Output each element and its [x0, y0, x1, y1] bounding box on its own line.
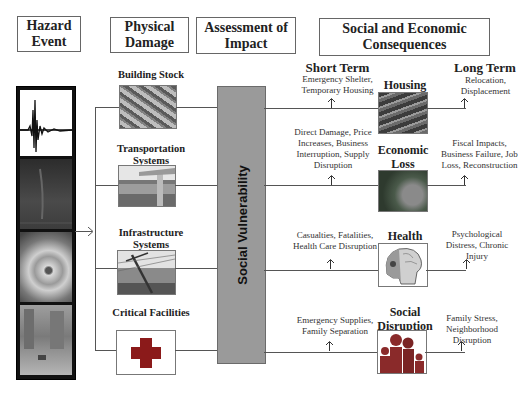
- collapsed-building-image: [119, 85, 177, 129]
- housing-connector-left: [264, 108, 378, 109]
- connector-infrastructure: [95, 268, 117, 269]
- collapsed-highway-image: [118, 165, 176, 207]
- tornado-image: [20, 159, 72, 229]
- header-physical-damage: Physical Damage: [110, 17, 189, 53]
- social-long-arrow-up-icon: [457, 341, 466, 351]
- economic-short-term-text: Direct Damage, Price Increases, Business…: [292, 127, 374, 171]
- family-icon-box: [377, 330, 427, 374]
- economic-connector-right: [426, 185, 466, 186]
- header-hazard-event: Hazard Event: [17, 16, 81, 52]
- economic-connector-left: [264, 185, 378, 186]
- damaged-house-image: [378, 92, 428, 134]
- connector-transportation-right: [175, 185, 217, 186]
- infrastructure-systems-label: Infrastructure Systems: [110, 227, 192, 251]
- red-cross-icon: [117, 331, 175, 374]
- header-assessment-label: Assessment of Impact: [197, 20, 295, 52]
- social-vulnerability-label: Social Vulnerability: [234, 165, 249, 284]
- housing-connector-right: [426, 108, 466, 109]
- fallen-power-pole-image: [117, 250, 176, 295]
- critical-facilities-box: [116, 330, 176, 375]
- social-vulnerability-bar: Social Vulnerability: [217, 86, 266, 364]
- social-short-arrow-up-icon: [325, 341, 334, 351]
- seismogram-image: [20, 90, 72, 156]
- health-label: Health: [380, 230, 430, 242]
- economic-long-term-text: Fiscal Impacts, Business Failure, Job Lo…: [436, 138, 523, 171]
- header-assessment-of-impact: Assessment of Impact: [196, 17, 296, 54]
- social-long-term-text: Family Stress, Neighborhood Disruption: [436, 313, 508, 346]
- critical-facilities-label: Critical Facilities: [110, 307, 192, 319]
- long-term-label: Long Term: [445, 60, 523, 76]
- housing-short-arrow-up-icon: [327, 98, 336, 108]
- header-social-economic-consequences: Social and Economic Consequences: [319, 18, 490, 56]
- family-icon: [378, 331, 426, 373]
- transportation-systems-label: Transportation Systems: [110, 143, 192, 167]
- connector-critical: [95, 350, 116, 351]
- skull-brain-image: [378, 243, 428, 287]
- housing-long-arrow-up-icon: [460, 98, 469, 108]
- header-physical-damage-label: Physical Damage: [111, 19, 188, 51]
- health-long-arrow-up-icon: [462, 259, 471, 269]
- dollar-bill-image: [378, 170, 428, 212]
- social-connector-left: [264, 352, 377, 353]
- flood-image: [20, 305, 72, 375]
- social-disruption-label: Social Disruption: [373, 305, 437, 333]
- header-consequences-label: Social and Economic Consequences: [320, 21, 489, 53]
- damage-bracket-vertical: [95, 107, 96, 350]
- health-short-term-text: Casualties, Fatalities, Health Care Disr…: [288, 230, 382, 252]
- connector-building-right: [176, 107, 217, 108]
- hazard-image-strip: [16, 86, 76, 380]
- health-short-arrow-up-icon: [326, 259, 335, 269]
- housing-label: Housing: [380, 79, 430, 91]
- connector-building: [95, 107, 119, 108]
- connector-transportation: [95, 185, 118, 186]
- housing-short-term-text: Emergency Shelter, Temporary Housing: [295, 74, 380, 96]
- health-long-term-text: Psychological Distress, Chronic Injury: [437, 229, 517, 262]
- social-short-term-text: Emergency Supplies, Family Separation: [290, 315, 380, 337]
- connector-critical-right: [175, 350, 217, 351]
- health-connector-right: [426, 270, 466, 271]
- header-hazard-event-label: Hazard Event: [18, 18, 80, 50]
- connector-infrastructure-right: [175, 268, 217, 269]
- social-connector-right: [425, 352, 465, 353]
- health-connector-left: [264, 270, 378, 271]
- housing-long-term-text: Relocation, Displacement: [448, 75, 523, 97]
- building-stock-label: Building Stock: [110, 69, 192, 81]
- economic-loss-label: Economic Loss: [375, 143, 431, 171]
- hurricane-image: [20, 232, 72, 302]
- economic-short-arrow-up-icon: [327, 175, 336, 185]
- arrow-right-icon: [88, 227, 94, 236]
- economic-long-arrow-up-icon: [460, 175, 469, 185]
